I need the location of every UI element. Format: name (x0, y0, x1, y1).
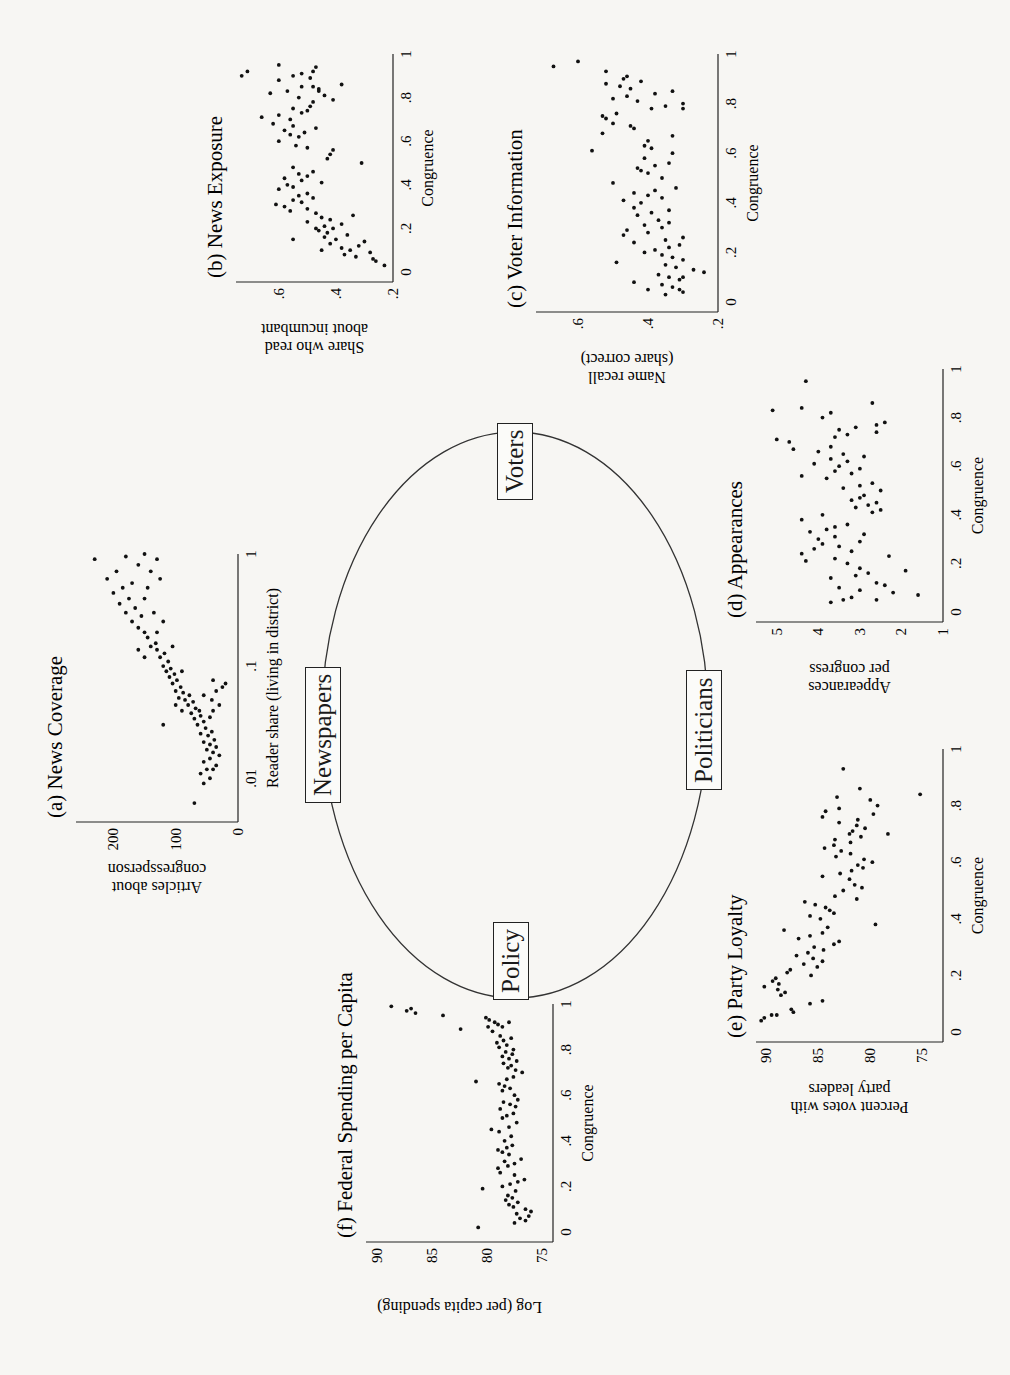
data-point (824, 809, 828, 813)
data-point (819, 917, 823, 921)
data-point (660, 196, 664, 200)
data-point (524, 1207, 528, 1211)
data-point (858, 566, 862, 570)
data-point (821, 999, 825, 1003)
panel-appearances: (d) Appearances0.2.4.6.8112345Congruence… (720, 355, 999, 700)
data-point (491, 1029, 495, 1033)
data-point (354, 255, 358, 259)
data-point (224, 682, 228, 686)
data-point (804, 559, 808, 563)
data-point (320, 216, 324, 220)
data-point (484, 1016, 488, 1020)
data-point (383, 264, 387, 268)
data-point (611, 122, 615, 126)
data-point (303, 131, 307, 135)
data-point (681, 290, 685, 294)
data-point (283, 205, 287, 209)
data-point (650, 107, 654, 111)
data-point (474, 1080, 478, 1084)
scatter-plot-e: (e) Party Loyalty0.2.4.6.8175808590Congr… (720, 735, 995, 1120)
data-point (325, 231, 329, 235)
data-point (808, 934, 812, 938)
data-point (812, 462, 816, 466)
data-point (505, 1114, 509, 1118)
data-point (660, 226, 664, 230)
data-points (240, 63, 387, 267)
data-point (277, 78, 281, 82)
data-point (183, 698, 187, 702)
data-point (317, 89, 321, 93)
data-point (174, 689, 178, 693)
data-point (841, 452, 845, 456)
data-point (291, 107, 295, 111)
data-point (883, 421, 887, 425)
data-point (870, 481, 874, 485)
data-point (164, 669, 168, 673)
data-point (508, 1102, 512, 1106)
data-point (770, 1013, 774, 1017)
data-point (833, 535, 837, 539)
y-tick-label: 85 (810, 1048, 826, 1063)
data-point (797, 937, 801, 941)
x-axis-label: Congruence (579, 1084, 597, 1161)
data-point (130, 581, 134, 585)
y-axis-label: Name recall (588, 369, 666, 386)
data-point (174, 703, 178, 707)
data-point (837, 821, 841, 825)
data-point (323, 94, 327, 98)
data-point (202, 740, 206, 744)
data-point (487, 1018, 491, 1022)
data-point (850, 472, 854, 476)
data-point (812, 945, 816, 949)
data-point (611, 97, 615, 101)
data-point (186, 703, 190, 707)
data-point (639, 79, 643, 83)
data-point (504, 1198, 508, 1202)
y-tick-label: .2 (710, 318, 726, 329)
data-point (775, 1013, 779, 1017)
data-points (93, 552, 228, 805)
x-tick-label: 1 (243, 550, 259, 558)
data-point (505, 1043, 509, 1047)
data-point (777, 982, 781, 986)
data-point (340, 246, 344, 250)
data-point (351, 213, 355, 217)
data-point (785, 971, 789, 975)
data-point (168, 675, 172, 679)
data-point (841, 889, 845, 893)
data-point (143, 630, 147, 634)
data-point (632, 280, 636, 284)
data-point (678, 288, 682, 292)
data-point (202, 693, 206, 697)
panel-news-coverage: (a) News Coverage.01.110100200Reader sha… (40, 540, 294, 900)
data-point (519, 1157, 523, 1161)
data-point (829, 457, 833, 461)
data-point (692, 268, 696, 272)
data-point (512, 1205, 516, 1209)
data-point (340, 83, 344, 87)
data-point (277, 113, 281, 117)
data-point (510, 1196, 514, 1200)
data-point (210, 698, 214, 702)
data-point (516, 1098, 520, 1102)
data-point (523, 1178, 527, 1182)
node-newspapers: Newspapers (305, 667, 341, 803)
data-point (105, 577, 109, 581)
data-point (507, 1125, 511, 1129)
data-point (667, 275, 671, 279)
data-point (212, 738, 216, 742)
x-tick-label: .8 (723, 98, 739, 109)
data-point (501, 1150, 505, 1154)
data-point (111, 591, 115, 595)
data-point (297, 135, 301, 139)
data-point (808, 1002, 812, 1006)
x-tick-label: .4 (723, 197, 739, 209)
data-point (515, 1121, 519, 1125)
data-point (495, 1041, 499, 1045)
data-point (812, 547, 816, 551)
data-point (646, 193, 650, 197)
data-points (389, 1004, 533, 1229)
data-point (604, 82, 608, 86)
data-point (507, 1153, 511, 1157)
data-point (497, 1082, 501, 1086)
